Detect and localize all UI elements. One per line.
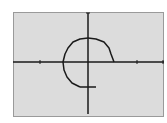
graph-plot — [0, 0, 167, 123]
curve-right-arc — [88, 38, 114, 62]
